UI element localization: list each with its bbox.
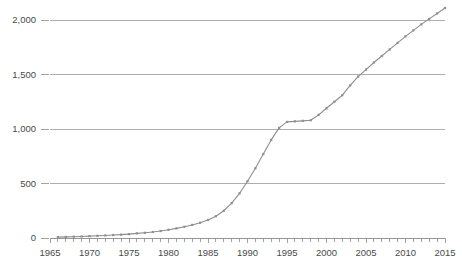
data-point-marker [286,121,288,123]
data-point-marker [325,107,327,109]
data-point-marker [215,215,217,217]
data-point-marker [199,222,201,224]
x-axis-ticks-group [50,238,445,243]
data-point-marker [104,234,106,236]
data-point-marker [128,233,130,235]
y-axis-tick-label: 1,000 [12,123,36,134]
data-point-marker [120,234,122,236]
data-point-marker [341,94,343,96]
x-axis-tick-label: 1985 [197,247,218,258]
data-point-marker [262,153,264,155]
data-point-marker [444,7,446,9]
data-point-marker [167,229,169,231]
x-axis-tick-label: 2015 [434,247,455,258]
data-point-marker [183,226,185,228]
data-point-marker [223,210,225,212]
x-axis-tick-label: 2000 [316,247,337,258]
data-point-marker [397,42,399,44]
data-point-marker [420,23,422,25]
data-point-marker [333,101,335,103]
y-axis-labels-group: 05001,0001,5002,000 [12,14,36,243]
data-point-marker [207,219,209,221]
data-series-line [58,8,445,237]
data-point-marker [357,76,359,78]
data-point-marker [389,48,391,50]
data-point-marker [239,192,241,194]
y-axis-tick-label: 0 [31,232,36,243]
y-axis-tick-label: 1,500 [12,69,36,80]
y-axis-ticks-group [41,20,49,238]
data-point-marker [381,55,383,57]
x-axis-tick-label: 1990 [237,247,258,258]
data-point-marker [365,69,367,71]
data-point-marker [412,29,414,31]
data-point-marker [310,119,312,121]
x-axis-tick-label: 1980 [158,247,179,258]
data-point-marker [302,120,304,122]
data-point-marker [81,235,83,237]
data-point-marker [270,139,272,141]
data-point-marker [96,235,98,237]
data-point-marker [152,231,154,233]
data-point-marker [278,127,280,129]
data-point-marker [246,180,248,182]
x-axis-tick-label: 1970 [79,247,100,258]
data-point-marker [112,234,114,236]
y-axis-tick-label: 2,000 [12,14,36,25]
data-point-marker [144,232,146,234]
x-axis-tick-label: 2005 [355,247,376,258]
data-point-marker [231,202,233,204]
data-point-marker [349,84,351,86]
data-point-marker [191,224,193,226]
x-axis-tick-label: 2010 [395,247,416,258]
data-point-marker [318,114,320,116]
data-point-marker [175,227,177,229]
data-point-marker [404,35,406,37]
data-point-marker [254,167,256,169]
data-point-marker [136,232,138,234]
data-point-marker [428,18,430,20]
data-point-marker [73,236,75,238]
data-point-marker [88,235,90,237]
data-point-marker [160,230,162,232]
gridlines-group [50,20,445,184]
line-chart: 05001,0001,5002,000 19651970197519801985… [0,0,462,273]
data-point-marker [294,120,296,122]
chart-container: 05001,0001,5002,000 19651970197519801985… [0,0,462,273]
series-line-group [58,8,445,237]
data-point-marker [373,61,375,63]
series-markers-group [57,7,446,238]
x-axis-tick-label: 1975 [118,247,139,258]
x-axis-tick-label: 1995 [276,247,297,258]
data-point-marker [436,12,438,14]
x-axis-labels-group: 1965197019751980198519901995200020052010… [39,247,455,258]
y-axis-tick-label: 500 [20,178,36,189]
data-point-marker [57,236,59,238]
x-axis-tick-label: 1965 [39,247,60,258]
data-point-marker [65,236,67,238]
